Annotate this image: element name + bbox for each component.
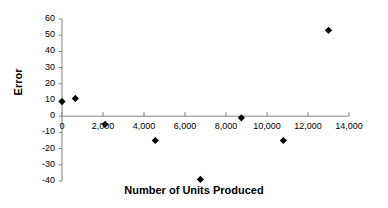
data-point [152, 137, 159, 144]
y-axis-tick-label: -30 [31, 159, 55, 169]
x-axis-tick-label: 6,000 [165, 121, 205, 131]
data-point [280, 137, 287, 144]
x-axis-tick-label: 2,000 [83, 121, 123, 131]
y-axis-tick-label: 60 [31, 13, 55, 23]
y-axis-tick-label: 40 [31, 45, 55, 55]
y-axis-tick-label: 20 [31, 78, 55, 88]
y-axis-tick-label: 30 [31, 62, 55, 72]
y-axis-tick-label: -20 [31, 143, 55, 153]
data-point [197, 176, 204, 183]
data-point [58, 98, 65, 105]
data-point [72, 95, 79, 102]
plot-area [0, 0, 388, 208]
data-point [325, 27, 332, 34]
x-axis-tick-label: 12,000 [288, 121, 328, 131]
y-axis-tick-label: -40 [31, 175, 55, 185]
scatter-chart: Error Number of Units Produced 605040302… [0, 0, 388, 208]
x-axis-tick-label: 10,000 [247, 121, 287, 131]
x-axis-tick-label: 0 [42, 121, 82, 131]
y-axis-tick-label: 10 [31, 94, 55, 104]
x-axis-tick-label: 8,000 [206, 121, 246, 131]
x-axis-tick-label: 4,000 [124, 121, 164, 131]
y-axis-tick-label: 0 [31, 110, 55, 120]
y-axis-tick-label: 50 [31, 29, 55, 39]
x-axis-tick-label: 14,000 [329, 121, 369, 131]
